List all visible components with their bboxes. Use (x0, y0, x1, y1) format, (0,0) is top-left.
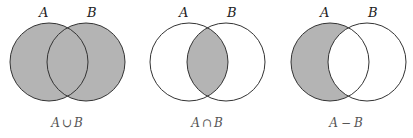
set-a-label: A (178, 5, 188, 20)
venn-union: A B A∪B (10, 5, 125, 130)
set-b-label: B (226, 5, 237, 20)
venn-diagrams: A B A∪B A B A∩B A B A−B (0, 0, 413, 138)
set-b-label: B (86, 5, 97, 20)
caption-union: A∪B (50, 116, 83, 130)
venn-intersection: A B A∩B (150, 5, 265, 130)
set-a-label: A (319, 5, 329, 20)
caption-intersection: A∩B (190, 116, 223, 130)
set-b-label: B (367, 5, 378, 20)
venn-difference: A B A−B (291, 5, 406, 130)
set-a-label: A (38, 5, 48, 20)
caption-difference: A−B (328, 116, 363, 130)
